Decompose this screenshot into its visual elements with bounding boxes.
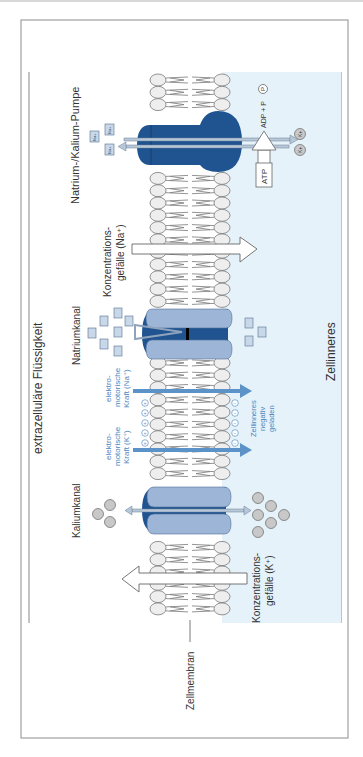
- na-gradient-label-1: Konzentrations-: [102, 227, 113, 297]
- svg-text:+: +: [144, 420, 147, 426]
- svg-text:Zellinneres: Zellinneres: [249, 400, 258, 437]
- svg-text:K+: K+: [297, 131, 303, 137]
- svg-text:+: +: [144, 410, 147, 416]
- svg-text:+: +: [144, 430, 147, 436]
- svg-text:Na+: Na+: [92, 133, 97, 141]
- membrane-label: Zellmembran: [185, 652, 196, 710]
- svg-text:K+: K+: [297, 147, 303, 153]
- svg-text:elektro-: elektro-: [104, 433, 113, 460]
- svg-text:−: −: [234, 400, 237, 406]
- potassium-channel-label: Kaliumkanal: [71, 484, 82, 538]
- k-channel-outside-ions: [93, 500, 116, 528]
- svg-text:negativ: negativ: [258, 407, 267, 431]
- svg-text:+: +: [144, 440, 147, 446]
- svg-text:P: P: [260, 87, 266, 91]
- sodium-channel: [135, 309, 232, 359]
- svg-text:Kraft (Na⁺): Kraft (Na⁺): [122, 369, 131, 408]
- na-gradient-label-2: gefälle (Na⁺): [115, 224, 126, 281]
- svg-text:Na+: Na+: [107, 146, 112, 154]
- svg-text:motorische: motorische: [113, 426, 122, 466]
- svg-text:elektro-: elektro-: [104, 375, 113, 402]
- svg-text:−: −: [234, 440, 237, 446]
- svg-text:−: −: [234, 430, 237, 436]
- pump-na-ions: Na+ Na+ Na+: [90, 124, 114, 155]
- svg-text:Na+: Na+: [107, 126, 112, 134]
- svg-text:−: −: [234, 410, 237, 416]
- atp-label: ATP: [260, 169, 269, 184]
- k-gradient-label-2: gefälle (K⁺): [264, 555, 275, 606]
- k-gradient-label-1: Konzentrations-: [251, 553, 262, 623]
- svg-text:motorische: motorische: [113, 367, 122, 407]
- adp-label: ADP + P: [260, 101, 267, 128]
- intracellular-title: Zellinneres: [324, 322, 338, 381]
- svg-text:−: −: [234, 420, 237, 426]
- na-channel-outside-ions: [88, 308, 133, 356]
- svg-text:+: +: [144, 400, 147, 406]
- extracellular-title: extrazelluläre Flüssigkeit: [31, 322, 45, 454]
- svg-text:Kraft (K⁺): Kraft (K⁺): [122, 430, 131, 464]
- svg-text:geladen: geladen: [267, 405, 276, 432]
- pump-label: Natrium-/Kalium-Pumpe: [69, 87, 81, 204]
- sodium-channel-label: Natriumkanal: [71, 306, 82, 365]
- membrane-transport-diagram: ATP ADP + P P Na+ Na+ Na+ K+ K+ Natrium-…: [0, 0, 363, 757]
